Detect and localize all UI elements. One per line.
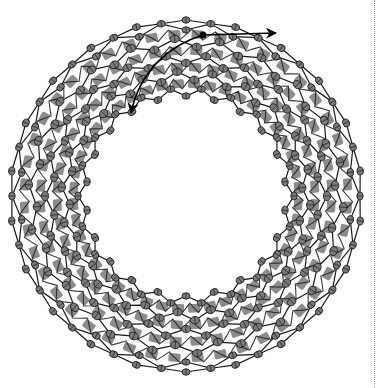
atom — [15, 240, 23, 249]
atom — [347, 168, 354, 177]
atom — [181, 325, 190, 332]
atom — [328, 285, 338, 295]
atom — [166, 299, 175, 306]
marker-dot — [200, 32, 207, 39]
atom — [201, 331, 211, 340]
atom — [342, 118, 351, 128]
atom — [182, 293, 190, 299]
lattice-atoms — [8, 17, 364, 375]
atom — [18, 215, 25, 224]
atom — [182, 17, 190, 23]
dotted-divider — [374, 0, 375, 388]
atom — [356, 217, 363, 226]
atom — [41, 191, 48, 200]
atom — [228, 351, 237, 359]
atom — [235, 107, 245, 117]
atom — [170, 341, 180, 349]
atom — [257, 125, 267, 135]
atom — [21, 264, 30, 274]
atom — [281, 177, 288, 186]
atom — [83, 206, 90, 215]
atom — [313, 172, 322, 182]
atom — [328, 97, 338, 107]
atom — [257, 256, 267, 266]
atom — [347, 215, 354, 224]
atom — [349, 142, 357, 151]
atom — [35, 285, 45, 295]
atom — [182, 369, 190, 375]
atom — [181, 59, 190, 66]
atom — [192, 43, 202, 51]
atom — [235, 275, 245, 285]
atom — [182, 93, 190, 99]
atom — [173, 308, 183, 316]
atom — [172, 68, 182, 76]
atom — [206, 20, 215, 27]
atom — [166, 85, 175, 92]
gray-blocks — [20, 30, 353, 363]
atom — [357, 192, 363, 200]
atom — [170, 35, 180, 43]
atom — [331, 180, 339, 190]
ring-lattice-svg — [0, 0, 379, 388]
atom — [25, 180, 33, 190]
atom — [66, 199, 74, 209]
atom — [15, 142, 23, 151]
atom — [134, 351, 143, 359]
atom — [197, 299, 206, 306]
atom — [50, 210, 59, 220]
atom — [21, 118, 30, 128]
atom — [189, 76, 199, 84]
atom — [132, 361, 141, 369]
atom — [9, 192, 15, 200]
atom — [127, 275, 137, 285]
atom — [35, 97, 45, 107]
atom — [231, 361, 240, 369]
atom — [105, 256, 115, 266]
atom — [209, 96, 218, 104]
atom — [18, 168, 25, 177]
atom — [157, 20, 166, 27]
atom — [197, 85, 206, 92]
atom — [58, 182, 66, 192]
atom — [323, 191, 330, 200]
atom — [105, 125, 115, 135]
atom — [231, 23, 240, 31]
atom — [306, 200, 314, 210]
atom — [291, 192, 297, 200]
atom — [356, 167, 363, 176]
atom — [182, 27, 190, 33]
atom — [298, 183, 306, 193]
atom — [161, 331, 171, 340]
lattice-bonds — [12, 20, 360, 372]
atom — [50, 172, 59, 182]
atom — [33, 202, 41, 212]
atom — [190, 316, 200, 324]
atom — [192, 349, 202, 357]
atom — [153, 96, 162, 104]
atom — [8, 167, 15, 176]
atom — [83, 177, 90, 186]
atom — [153, 288, 162, 296]
atom — [342, 264, 351, 274]
atom — [209, 288, 218, 296]
atom — [132, 23, 141, 31]
atom — [349, 240, 357, 249]
ring-lattice-diagram — [0, 0, 379, 388]
atom — [134, 33, 143, 41]
atom — [157, 364, 166, 371]
atom — [281, 206, 288, 215]
atom — [201, 52, 211, 61]
atom — [8, 217, 15, 226]
atom — [313, 210, 322, 220]
atom — [206, 364, 215, 371]
atom — [182, 359, 190, 365]
atom — [339, 202, 347, 212]
atom — [75, 192, 81, 200]
